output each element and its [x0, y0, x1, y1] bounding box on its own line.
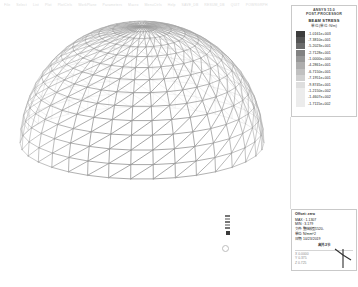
geodesic-dome-mesh — [8, 15, 276, 265]
info-max-value: 1.1307 — [306, 218, 317, 222]
picked-node-ring — [222, 245, 229, 252]
menu-item-plot[interactable]: Plot — [45, 3, 52, 7]
application-window: File Select List Plot PlotCtrls WorkPlan… — [0, 0, 358, 287]
toolbar-save-db[interactable]: SAVE_DB — [182, 3, 199, 7]
legend-color-swatch — [296, 43, 305, 49]
toolbar-quit[interactable]: QUIT — [231, 3, 240, 7]
legend-color-swatch — [296, 37, 305, 43]
menu-item-help[interactable]: Help — [168, 3, 176, 7]
legend-row: -1.7115e+002 — [294, 101, 354, 107]
legend-value: -7.1951e+001 — [308, 75, 331, 81]
legend-value: -4.2861e+001 — [308, 62, 331, 68]
legend-value: -1.4607e+002 — [308, 94, 331, 100]
pick-tick-5 — [225, 227, 230, 229]
pick-tick-1 — [225, 215, 230, 217]
legend-title: BEAM STRESS — [294, 18, 354, 23]
legend-unit: 单位(单位:N/m) — [294, 24, 354, 29]
menu-item-list[interactable]: List — [33, 3, 39, 7]
legend-value: -5.2023e+001 — [308, 43, 331, 49]
legend-color-swatch — [296, 82, 305, 88]
info-min-label: MIN — [295, 222, 301, 226]
menu-item-plotctrls[interactable]: PlotCtrls — [58, 3, 73, 7]
toolbar-resume-db[interactable]: RESUM_DB — [204, 3, 224, 7]
legend-color-swatch — [296, 31, 305, 37]
menu-item-parameters[interactable]: Parameters — [103, 3, 123, 7]
legend-color-swatch — [296, 69, 305, 75]
legend-color-swatch — [296, 56, 305, 62]
info-max-label: MAX — [295, 218, 303, 222]
legend-color-swatch — [296, 88, 305, 94]
menu-item-macro[interactable]: Macro — [128, 3, 138, 7]
legend-value: -9.8745e+001 — [308, 82, 331, 88]
info-file-value: 整体模型1520- — [303, 227, 324, 231]
info-offset-title: Offset: zero — [295, 212, 353, 217]
pick-tick-3 — [225, 221, 230, 223]
pick-tick-4 — [225, 224, 230, 226]
legend-color-scale: -1.0161e+003-7.3810e+001-5.2023e+001-2.7… — [294, 30, 354, 107]
legend-module-line: POST-PROCESSOR — [294, 12, 354, 16]
toolbar-powergraph[interactable]: POWRGRPH — [246, 3, 268, 7]
legend-value: -1.0000e+000 — [308, 56, 331, 62]
legend-value: -6.7150e+001 — [308, 69, 331, 75]
legend-value: -1.0161e+003 — [308, 31, 331, 37]
info-date-row: 日期: 10/23/2019 — [295, 237, 353, 242]
panel-divider-line — [290, 117, 291, 209]
legend-color-swatch — [296, 75, 305, 81]
info-date-label: 日期: — [295, 237, 302, 241]
legend-value: -1.7115e+002 — [308, 101, 331, 107]
stress-legend-panel: ANSYS 15.0 POST-PROCESSOR BEAM STRESS 单位… — [291, 5, 357, 117]
legend-header: ANSYS 15.0 POST-PROCESSOR — [294, 8, 354, 17]
legend-value: -2.7128e+001 — [308, 50, 331, 56]
info-unit-value: N/mm^2 — [303, 232, 316, 236]
info-unit-label: 单位: — [295, 232, 302, 236]
pick-tick-2 — [225, 218, 230, 220]
picked-node-label — [224, 215, 231, 243]
legend-color-swatch — [296, 94, 305, 100]
legend-color-swatch — [296, 50, 305, 56]
info-min-value: 3.179 — [304, 222, 313, 226]
legend-color-swatch — [296, 101, 305, 107]
info-date-value: 10/23/2019 — [303, 237, 321, 241]
legend-value: -1.2150e+002 — [308, 88, 331, 94]
legend-color-swatch — [296, 62, 305, 68]
axis-triad-icon — [332, 246, 354, 270]
legend-value: -7.3810e+001 — [308, 37, 331, 43]
menu-item-file[interactable]: File — [4, 3, 10, 7]
menu-item-menuctrls[interactable]: MenuCtrls — [145, 3, 162, 7]
menu-item-select[interactable]: Select — [16, 3, 27, 7]
info-file-label: 文件: — [295, 227, 302, 231]
picked-node-marker — [226, 231, 230, 235]
menu-item-workplane[interactable]: WorkPlane — [78, 3, 96, 7]
